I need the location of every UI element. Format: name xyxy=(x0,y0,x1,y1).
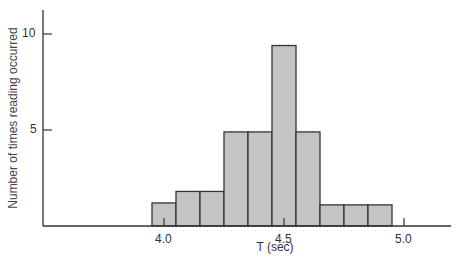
y-tick-label-10: 10 xyxy=(22,26,35,40)
x-axis-label: T (sec) xyxy=(256,240,293,254)
histogram-bar xyxy=(176,191,200,226)
histogram-bar xyxy=(344,205,368,226)
histogram-bar xyxy=(368,205,392,226)
y-tick-label-5: 5 xyxy=(30,122,37,136)
histogram-bar xyxy=(224,132,248,226)
histogram-bar xyxy=(296,132,320,226)
histogram-chart: Number of times reading occurred 10 5 4.… xyxy=(0,0,458,265)
x-tick-label-4-0: 4.0 xyxy=(155,232,172,246)
plot-area xyxy=(0,0,458,265)
histogram-bar xyxy=(320,205,344,226)
x-tick-label-5-0: 5.0 xyxy=(395,232,412,246)
histogram-bar xyxy=(248,132,272,226)
y-axis-label-text: Number of times reading occurred xyxy=(6,27,20,208)
histogram-bar xyxy=(200,191,224,226)
histogram-bar xyxy=(272,46,296,226)
